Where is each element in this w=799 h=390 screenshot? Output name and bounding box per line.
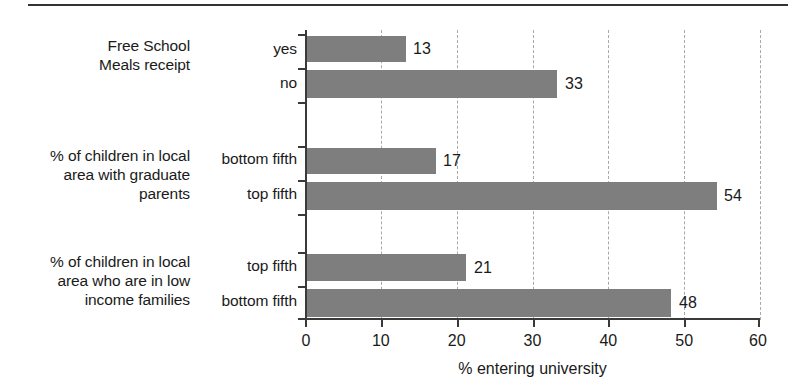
y-axis-tick-7 (298, 286, 306, 288)
y-axis-tick-4 (298, 180, 306, 182)
bar-lowinc-bottom-fifth (307, 289, 671, 317)
category-label-fsm-yes: yes (197, 40, 297, 57)
bar-value-fsm-yes: 13 (413, 40, 431, 58)
category-label-lowinc-top-fifth: top fifth (177, 257, 297, 274)
x-axis-label-40: 40 (599, 332, 617, 350)
bar-chart-figure: Free School Meals receipt % of children … (0, 0, 799, 390)
gridline-60 (760, 30, 761, 320)
y-axis-tick-3 (298, 146, 306, 148)
y-axis-tick-6 (298, 252, 306, 254)
x-axis-tick-40 (608, 319, 610, 327)
y-axis-tick-5 (298, 214, 306, 216)
x-axis-label-10: 10 (372, 332, 390, 350)
bar-grad-bottom-fifth (307, 148, 436, 174)
y-axis-tick-1 (298, 68, 306, 70)
bar-fsm-no (307, 70, 557, 98)
bar-lowinc-top-fifth (307, 254, 466, 281)
bar-value-lowinc-top-fifth: 21 (474, 259, 492, 277)
x-axis-tick-10 (381, 319, 383, 327)
x-axis-label-30: 30 (524, 332, 542, 350)
category-label-fsm-no: no (197, 74, 297, 91)
bar-fsm-yes (307, 36, 406, 62)
category-label-grad-bottom-fifth: bottom fifth (177, 150, 297, 167)
top-divider-rule (28, 4, 788, 6)
bar-grad-top-fifth (307, 182, 717, 210)
bar-value-grad-top-fifth: 54 (724, 187, 742, 205)
x-axis-tick-0 (305, 319, 307, 327)
group-caption-low-income-families: % of children in local area who are in l… (20, 252, 190, 309)
plot-area: 13 33 17 54 21 48 0 10 20 30 40 50 60 % … (305, 30, 760, 320)
y-axis-tick-2 (298, 102, 306, 104)
x-axis-label-50: 50 (675, 332, 693, 350)
x-axis-label-60: 60 (749, 332, 767, 350)
group-caption-graduate-parents: % of children in local area with graduat… (20, 146, 190, 203)
y-axis-tick-0 (298, 34, 306, 36)
x-axis-label-0: 0 (302, 332, 311, 350)
bar-value-grad-bottom-fifth: 17 (443, 152, 461, 170)
category-label-lowinc-bottom-fifth: bottom fifth (177, 292, 297, 309)
x-axis-tick-60 (758, 319, 760, 327)
gridline-50 (684, 30, 685, 320)
x-axis-label-20: 20 (448, 332, 466, 350)
bar-value-lowinc-bottom-fifth: 48 (679, 294, 697, 312)
x-axis-tick-50 (684, 319, 686, 327)
gridline-40 (608, 30, 609, 320)
x-axis-tick-20 (457, 319, 459, 327)
x-axis-title: % entering university (305, 360, 760, 378)
x-axis-tick-30 (533, 319, 535, 327)
category-label-grad-top-fifth: top fifth (177, 185, 297, 202)
group-caption-free-school-meals: Free School Meals receipt (20, 36, 190, 74)
bar-value-fsm-no: 33 (565, 75, 583, 93)
